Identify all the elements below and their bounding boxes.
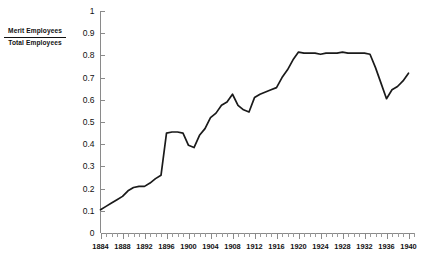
y-tick-label: 1: [90, 6, 95, 16]
x-tick-label: 1896: [158, 242, 174, 251]
y-axis-ticks: [101, 12, 105, 234]
x-axis-tick-labels: 1884188818921896190019041908191219161920…: [92, 242, 416, 251]
y-tick-label: 0.4: [83, 139, 95, 149]
x-tick-label: 1900: [180, 242, 196, 251]
y-tick-label: 0.9: [83, 28, 95, 38]
x-tick-label: 1904: [202, 242, 219, 251]
x-tick-label: 1892: [136, 242, 152, 251]
y-tick-label: 0.6: [83, 95, 95, 105]
y-tick-label: 0.1: [83, 206, 95, 216]
x-tick-label: 1932: [356, 242, 372, 251]
x-tick-label: 1920: [290, 242, 306, 251]
y-tick-label: 0.7: [83, 73, 95, 83]
y-tick-label: 0: [90, 228, 95, 238]
x-tick-label: 1908: [224, 242, 240, 251]
x-tick-label: 1924: [312, 242, 329, 251]
x-tick-label: 1912: [246, 242, 262, 251]
x-tick-label: 1928: [334, 242, 350, 251]
y-axis: 00.10.20.30.40.50.60.70.80.91: [83, 6, 105, 238]
y-tick-label: 0.3: [83, 161, 95, 171]
x-tick-label: 1936: [378, 242, 394, 251]
x-axis: 1884188818921896190019041908191219161920…: [92, 233, 416, 251]
y-axis-tick-labels: 00.10.20.30.40.50.60.70.80.91: [83, 6, 95, 238]
y-tick-label: 0.5: [83, 117, 95, 127]
data-series-line: [101, 52, 409, 210]
chart-figure: Merit Employees Total Employees 00.10.20…: [0, 0, 428, 267]
x-tick-label: 1888: [114, 242, 130, 251]
x-tick-label: 1884: [92, 242, 109, 251]
x-tick-label: 1916: [268, 242, 284, 251]
line-chart-plot: 00.10.20.30.40.50.60.70.80.91 1884188818…: [0, 0, 428, 267]
y-tick-label: 0.8: [83, 50, 95, 60]
x-tick-label: 1940: [400, 242, 416, 251]
y-tick-label: 0.2: [83, 184, 95, 194]
